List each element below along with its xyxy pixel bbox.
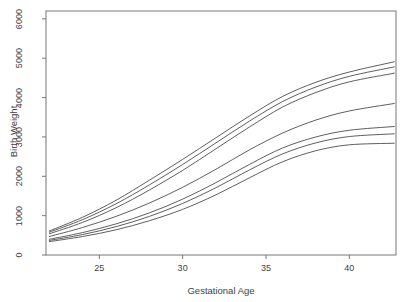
x-tick-label: 35: [246, 263, 286, 273]
growth-curve: [49, 67, 394, 232]
y-tick-label: 0: [13, 238, 25, 272]
x-tick-label: 40: [329, 263, 369, 273]
y-axis-title: Birth Weight: [8, 72, 19, 192]
growth-curve: [49, 143, 394, 241]
x-tick-label: 25: [79, 263, 119, 273]
x-axis-title: Gestational Age: [46, 285, 396, 296]
y-tick-label: 6000: [13, 2, 25, 36]
y-tick-label: 1000: [13, 199, 25, 233]
growth-curve: [49, 62, 394, 231]
chart-figure: 0100020003000400050006000 25303540 Birth…: [0, 0, 415, 302]
plot-box: [46, 11, 396, 255]
growth-curve: [49, 103, 394, 236]
axis-ticks: [42, 19, 349, 259]
plot-canvas: [0, 0, 415, 302]
plot-frame: [46, 11, 396, 255]
curve-lines: [49, 62, 394, 242]
growth-curve: [49, 73, 394, 234]
growth-curve: [49, 127, 394, 240]
x-tick-label: 30: [163, 263, 203, 273]
growth-curve: [49, 134, 394, 241]
y-tick-label: 5000: [13, 41, 25, 75]
